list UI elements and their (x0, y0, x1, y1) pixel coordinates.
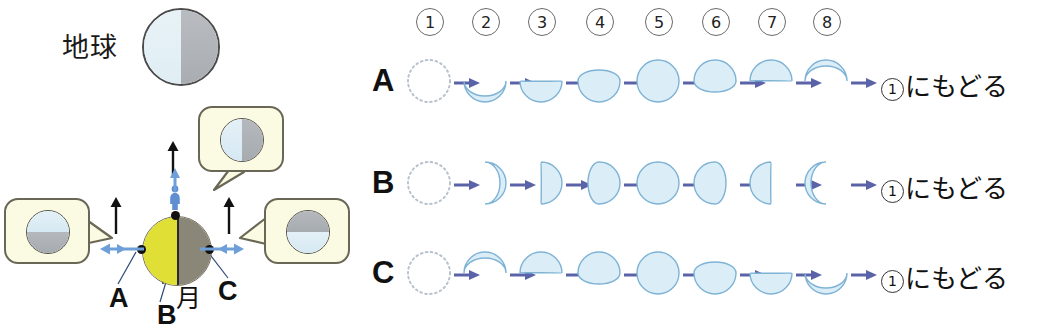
loop-ring-number: 1 (881, 180, 904, 203)
step-number-3: 3 (528, 8, 556, 36)
earth-dark-half (181, 10, 218, 84)
phase-sequence-panel: 12345678 A1にもどるB1にもどるC1にもどる (370, 0, 1049, 322)
phase-c-7 (748, 250, 794, 296)
view-dark-part (287, 211, 329, 232)
horizon-double-arrow-right-icon (196, 240, 244, 258)
step-number-5: 5 (645, 8, 673, 36)
zenith-arrow-left-icon (109, 196, 123, 234)
loop-back-label: にもどる (905, 174, 1008, 204)
moon-lit-half (143, 217, 177, 285)
view-light-part (27, 211, 69, 232)
arrow-a-8 (851, 75, 877, 87)
phase-c-1 (406, 250, 452, 296)
phase-a-5 (635, 58, 681, 104)
phase-a-8 (803, 58, 849, 104)
loop-back-text-c: 1にもどる (881, 258, 1008, 295)
phase-a-6 (692, 58, 738, 104)
zenith-arrow-right-icon (222, 196, 236, 234)
moon-view-top-icon (220, 118, 264, 162)
point-label-c: C (218, 276, 238, 307)
loop-back-label: にもどる (905, 264, 1008, 294)
view-dark-part (242, 119, 263, 161)
moon-view-right-icon (286, 210, 330, 254)
earth-globe-icon (142, 8, 220, 86)
horizon-double-arrow-left-icon (100, 240, 148, 258)
phase-b-5 (635, 160, 681, 206)
phase-a-7 (748, 58, 794, 104)
phase-b-1 (406, 160, 452, 206)
loop-back-label: にもどる (905, 72, 1008, 102)
view-light-part (287, 232, 329, 253)
speech-bubble-right (264, 198, 350, 264)
row-label-a: A (372, 63, 394, 99)
step-number-1: 1 (416, 8, 444, 36)
step-number-8: 8 (813, 8, 841, 36)
loop-back-text-a: 1にもどる (881, 66, 1008, 103)
phase-c-2 (462, 250, 508, 296)
phase-b-7 (748, 160, 794, 206)
phase-c-5 (635, 250, 681, 296)
phase-a-4 (576, 58, 622, 104)
phase-b-4 (576, 160, 622, 206)
speech-bubble-top (198, 106, 284, 172)
observer-point-b-dot (171, 211, 180, 220)
row-label-b: B (372, 165, 394, 201)
earth-lit-half (144, 10, 181, 84)
phase-b-2 (462, 160, 508, 206)
step-number-6: 6 (702, 8, 730, 36)
moon-view-left-icon (26, 210, 70, 254)
loop-ring-number: 1 (881, 270, 904, 293)
phase-a-3 (518, 58, 564, 104)
speech-bubble-left (4, 198, 90, 264)
phase-b-3 (518, 160, 564, 206)
row-label-c: C (372, 255, 394, 291)
step-number-4: 4 (586, 8, 614, 36)
point-label-b: B (157, 300, 177, 328)
view-light-part (221, 119, 242, 161)
phase-c-6 (692, 250, 738, 296)
arrow-b-8 (851, 177, 877, 189)
view-dark-part (27, 232, 69, 253)
step-number-7: 7 (758, 8, 786, 36)
moon-label: 月 (176, 278, 201, 314)
arrow-c-8 (851, 267, 877, 279)
phase-b-8 (803, 160, 849, 206)
point-label-a: A (109, 283, 129, 314)
phase-c-8 (803, 250, 849, 296)
loop-back-text-b: 1にもどる (881, 168, 1008, 205)
moon-phase-orbit-diagram: 地球 月 (0, 0, 370, 322)
phase-c-3 (518, 250, 564, 296)
moon-terminator-line (177, 217, 179, 285)
earth-label: 地球 (62, 26, 118, 65)
phase-b-6 (692, 160, 738, 206)
phase-a-2 (462, 58, 508, 104)
loop-ring-number: 1 (881, 78, 904, 101)
step-number-2: 2 (472, 8, 500, 36)
vertical-double-arrow-icon (166, 168, 184, 194)
phase-a-1 (406, 58, 452, 104)
phase-c-4 (576, 250, 622, 296)
